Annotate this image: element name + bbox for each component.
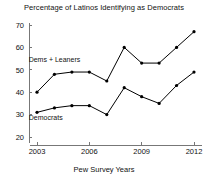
data-point (175, 46, 178, 49)
x-axis-tick-label: 2009 (133, 147, 150, 156)
chart-plot-area: 203040506070 2003200620092012 Dems + Lea… (0, 0, 208, 179)
data-point (35, 91, 38, 94)
y-axis-tick-label: 60 (16, 43, 24, 52)
data-point (70, 70, 73, 73)
x-axis-tick-label: 2003 (29, 147, 46, 156)
data-point (53, 106, 56, 109)
series-label-0: Dems + Leaners (29, 56, 81, 63)
x-axis-tick-label: 2006 (81, 147, 98, 156)
data-point (175, 84, 178, 87)
data-point (140, 61, 143, 64)
data-point (53, 73, 56, 76)
data-point (88, 70, 91, 73)
data-point (88, 104, 91, 107)
y-axis-tick-label: 30 (16, 110, 24, 119)
data-point (105, 79, 108, 82)
data-point (158, 61, 161, 64)
x-axis: 2003200620092012 (29, 142, 203, 156)
y-axis-tick-label: 20 (16, 133, 24, 142)
x-axis-title: Pew Survey Years (74, 165, 135, 174)
series-line-1 (37, 72, 194, 115)
series-label-1: Democrats (29, 114, 63, 121)
data-point (192, 30, 195, 33)
data-point (123, 46, 126, 49)
y-axis-tick-label: 50 (16, 66, 24, 75)
data-point (70, 104, 73, 107)
y-axis-tick-label: 70 (16, 21, 24, 30)
y-axis-tick-label: 40 (16, 88, 24, 97)
data-point (192, 70, 195, 73)
data-point (123, 86, 126, 89)
series-layer (35, 30, 195, 116)
data-point (105, 113, 108, 116)
data-point (140, 95, 143, 98)
y-axis: 203040506070 (16, 21, 32, 143)
x-axis-tick-label: 2012 (186, 147, 203, 156)
chart-container: Percentage of Latinos Identifying as Dem… (0, 0, 208, 179)
data-point (158, 102, 161, 105)
